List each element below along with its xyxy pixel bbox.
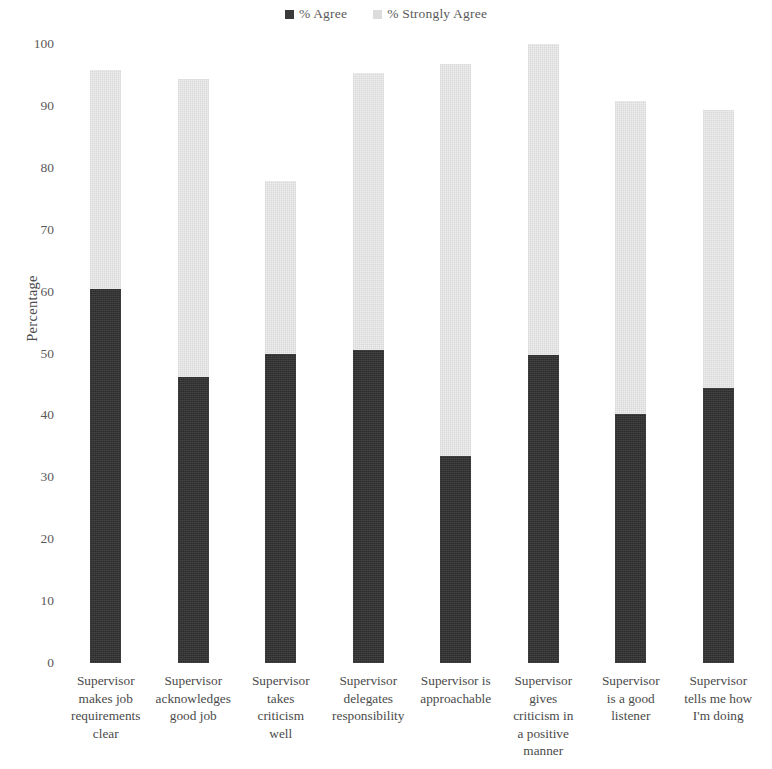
plot-area: 1009080706050403020100 — [62, 44, 762, 663]
bar-segment-strongly-agree[interactable] — [703, 110, 734, 388]
stacked-bar[interactable] — [528, 44, 559, 663]
y-axis-tick-20: 20 — [41, 531, 55, 547]
bar-segment-agree[interactable] — [178, 377, 209, 663]
x-axis-label: Supervisor isapproachable — [412, 672, 500, 707]
y-axis-tick-50: 50 — [41, 346, 55, 362]
y-axis-tick-80: 80 — [41, 160, 55, 176]
x-axis-label: Supervisorgivescriticism ina positiveman… — [500, 672, 588, 760]
bar-segment-agree[interactable] — [440, 456, 471, 663]
bar-segment-agree[interactable] — [90, 289, 121, 663]
x-axis-label: Supervisoris a goodlistener — [587, 672, 675, 725]
stacked-bar[interactable] — [615, 101, 646, 663]
bar-column[interactable] — [325, 44, 413, 663]
bar-segment-strongly-agree[interactable] — [178, 79, 209, 377]
bar-column[interactable] — [675, 44, 763, 663]
stacked-bar[interactable] — [353, 73, 384, 664]
legend-item-agree: % Agree — [285, 6, 347, 22]
bar-group — [62, 44, 762, 663]
bar-segment-strongly-agree[interactable] — [265, 181, 296, 354]
y-axis-tick-40: 40 — [41, 407, 55, 423]
y-axis-tick-30: 30 — [41, 469, 55, 485]
bar-segment-agree[interactable] — [615, 414, 646, 663]
y-axis-title: Percentage — [24, 239, 41, 379]
stacked-bar[interactable] — [440, 64, 471, 663]
bar-segment-agree[interactable] — [528, 355, 559, 663]
legend-label-agree: % Agree — [299, 6, 347, 22]
stacked-bar[interactable] — [265, 181, 296, 663]
y-axis-tick-60: 60 — [41, 284, 55, 300]
bar-segment-agree[interactable] — [265, 354, 296, 664]
x-axis-label: Supervisormakes jobrequirementsclear — [62, 672, 150, 742]
y-axis-tick-100: 100 — [34, 36, 54, 52]
bar-column[interactable] — [150, 44, 238, 663]
bar-column[interactable] — [412, 44, 500, 663]
bar-segment-strongly-agree[interactable] — [353, 73, 384, 350]
legend-swatch-icon-agree — [285, 10, 294, 19]
bar-segment-agree[interactable] — [353, 350, 384, 663]
stacked-bar[interactable] — [703, 110, 734, 663]
bar-column[interactable] — [587, 44, 675, 663]
x-axis-labels: Supervisormakes jobrequirementsclearSupe… — [62, 672, 762, 767]
y-axis-tick-70: 70 — [41, 222, 55, 238]
x-axis-label: Supervisoracknowledgesgood job — [150, 672, 238, 725]
stacked-bar-chart: % Agree % Strongly Agree Percentage 1009… — [0, 0, 772, 769]
x-axis-label: Supervisortakescriticismwell — [237, 672, 325, 742]
legend-swatch-icon-strongly-agree — [373, 10, 382, 19]
bar-segment-strongly-agree[interactable] — [90, 70, 121, 289]
bar-column[interactable] — [62, 44, 150, 663]
stacked-bar[interactable] — [178, 79, 209, 663]
bar-segment-agree[interactable] — [703, 388, 734, 663]
x-axis-label: Supervisortells me howI'm doing — [675, 672, 763, 725]
bar-segment-strongly-agree[interactable] — [440, 64, 471, 456]
legend-label-strongly-agree: % Strongly Agree — [387, 6, 487, 22]
bar-segment-strongly-agree[interactable] — [528, 44, 559, 355]
bar-column[interactable] — [500, 44, 588, 663]
stacked-bar[interactable] — [90, 70, 121, 663]
chart-legend: % Agree % Strongly Agree — [0, 6, 772, 22]
bar-column[interactable] — [237, 44, 325, 663]
bar-segment-strongly-agree[interactable] — [615, 101, 646, 414]
y-axis-tick-0: 0 — [47, 655, 54, 671]
legend-item-strongly-agree: % Strongly Agree — [373, 6, 487, 22]
y-axis-tick-90: 90 — [41, 98, 55, 114]
x-axis-label: Supervisordelegatesresponsibility — [325, 672, 413, 725]
y-axis-tick-10: 10 — [41, 593, 55, 609]
